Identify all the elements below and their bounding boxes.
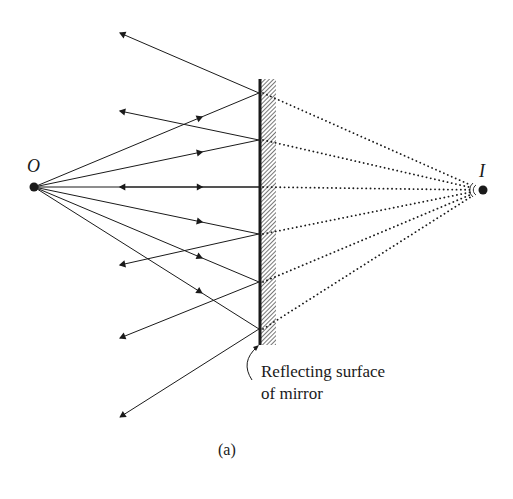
incident-ray-5 bbox=[34, 187, 259, 282]
reflected-ray-1 bbox=[120, 33, 259, 93]
rays-group bbox=[34, 32, 259, 418]
incident-ray-arrowhead-2 bbox=[196, 150, 203, 157]
virtual-ray-5 bbox=[263, 195, 470, 282]
incident-ray-6 bbox=[34, 187, 259, 329]
virtual-ray-4 bbox=[263, 192, 470, 234]
reflected-ray-arrowhead-2 bbox=[119, 109, 126, 116]
virtual-ray-3 bbox=[263, 187, 470, 190]
reflected-ray-5 bbox=[120, 282, 259, 338]
virtual-ray-1 bbox=[263, 93, 470, 185]
incident-ray-4 bbox=[34, 187, 259, 234]
incident-ray-arrowhead-6 bbox=[195, 287, 202, 294]
mirror-hatch bbox=[260, 79, 276, 345]
virtual-rays-group bbox=[263, 93, 470, 329]
reflected-ray-4 bbox=[120, 234, 259, 265]
reflected-ray-arrowhead-4 bbox=[119, 260, 126, 267]
incident-ray-arrowhead-4 bbox=[196, 218, 203, 225]
annotation-pointer-arrow bbox=[247, 347, 257, 380]
annotation-line-1: Reflecting surface bbox=[261, 362, 385, 381]
diagram-canvas: O I Reflecting surface of mirror (a) bbox=[0, 0, 513, 499]
incident-ray-1 bbox=[34, 93, 259, 187]
image-label: I bbox=[478, 161, 486, 181]
image-point-arcs bbox=[470, 183, 476, 197]
figure-caption: (a) bbox=[218, 441, 236, 459]
virtual-ray-2 bbox=[263, 140, 470, 187]
object-label: O bbox=[27, 156, 40, 176]
reflected-ray-6 bbox=[120, 329, 259, 417]
incident-ray-2 bbox=[34, 140, 259, 187]
reflected-ray-2 bbox=[120, 111, 259, 140]
object-point-o bbox=[30, 183, 39, 192]
image-point-i bbox=[479, 186, 488, 195]
virtual-ray-6 bbox=[263, 197, 470, 329]
mirror bbox=[260, 79, 276, 345]
plane-mirror-reflection-diagram: O I Reflecting surface of mirror (a) bbox=[0, 0, 513, 499]
annotation-line-2: of mirror bbox=[261, 384, 323, 403]
reflected-ray-arrowhead-3 bbox=[119, 183, 126, 190]
reflected-ray-arrowhead-6 bbox=[119, 411, 126, 418]
